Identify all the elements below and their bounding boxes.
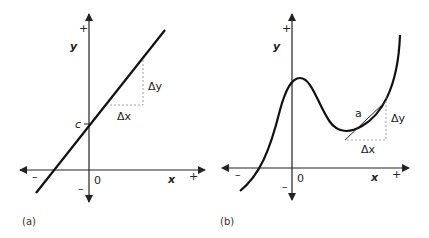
y-axis-label: y [70,40,78,53]
x-axis-label: x [167,173,176,186]
intercept-label: c [75,118,81,131]
linear-function-line [36,30,165,193]
slope-triangle [347,95,386,140]
x-axis-label: x [370,171,379,184]
y-plus-label: + [79,22,88,35]
x-minus-label: – [235,168,241,181]
origin-label: 0 [94,174,101,187]
caption-a: (a) [22,216,36,227]
y-minus-label: – [282,180,288,193]
delta-y-label: Δy [148,80,163,93]
y-plus-label: + [282,22,291,35]
delta-x-label: Δx [117,110,132,123]
panel-a: + y c Δy Δx – 0 x + – (a) [20,14,205,227]
tangent-line [345,102,385,140]
x-minus-label: – [32,170,38,183]
y-minus-label: – [78,182,84,195]
panel-b: + y a Δy Δx – 0 x + – (b) [220,14,409,227]
y-axis-label: y [273,40,281,53]
delta-y-label: Δy [391,112,406,125]
x-plus-label: + [392,168,401,181]
delta-x-label: Δx [361,143,376,156]
point-a-label: a [355,107,362,120]
caption-b: (b) [220,216,234,227]
x-plus-label: + [189,170,198,183]
origin-label: 0 [297,172,304,185]
diagram-canvas: + y c Δy Δx – 0 x + – (a) + y a Δy Δx – … [0,0,429,238]
